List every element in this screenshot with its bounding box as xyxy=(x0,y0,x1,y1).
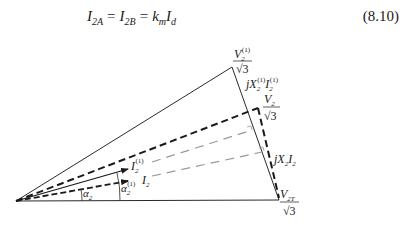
dashed-line-origin-to-v2 xyxy=(16,108,258,201)
right-angle-marker-upper xyxy=(247,126,252,130)
svg-text:I2: I2 xyxy=(141,173,150,189)
label-i2: I2 xyxy=(141,173,150,189)
solid-line-origin-to-v2t xyxy=(16,200,279,201)
svg-text:jX2I2: jX2I2 xyxy=(272,152,296,168)
label-v21-over-sqrt3: V2(1) √3 xyxy=(233,46,252,76)
label-jx2-i2: jX2I2 xyxy=(272,152,296,168)
svg-text:jX2(1)I2(1): jX2(1)I2(1) xyxy=(244,76,279,93)
label-alpha21: α2(1) xyxy=(121,180,136,197)
phasor-diagram: V2(1) √3 jX2(1)I2(1) V2 √3 jX2I2 V2T √3 … xyxy=(0,0,411,228)
label-jx21-i21: jX2(1)I2(1) xyxy=(244,76,279,93)
label-v2-over-sqrt3: V2 √3 xyxy=(263,92,280,123)
svg-text:α2(1): α2(1) xyxy=(121,180,136,197)
svg-text:V2T: V2T xyxy=(280,187,296,203)
svg-text:V2(1): V2(1) xyxy=(234,46,251,63)
svg-text:√3: √3 xyxy=(236,62,249,76)
svg-text:α2: α2 xyxy=(83,187,93,202)
arrow-i21 xyxy=(16,169,128,201)
angle-arc-alpha21 xyxy=(117,173,120,201)
svg-text:√3: √3 xyxy=(283,204,296,218)
label-v2t-over-sqrt3: V2T √3 xyxy=(280,187,299,218)
svg-text:V2: V2 xyxy=(264,92,275,108)
gray-dashed-i2-extension xyxy=(152,152,262,176)
gray-dashed-i21-extension xyxy=(152,131,249,162)
svg-text:√3: √3 xyxy=(264,109,277,123)
angle-arc-alpha2 xyxy=(81,189,82,201)
label-alpha2: α2 xyxy=(83,187,93,202)
